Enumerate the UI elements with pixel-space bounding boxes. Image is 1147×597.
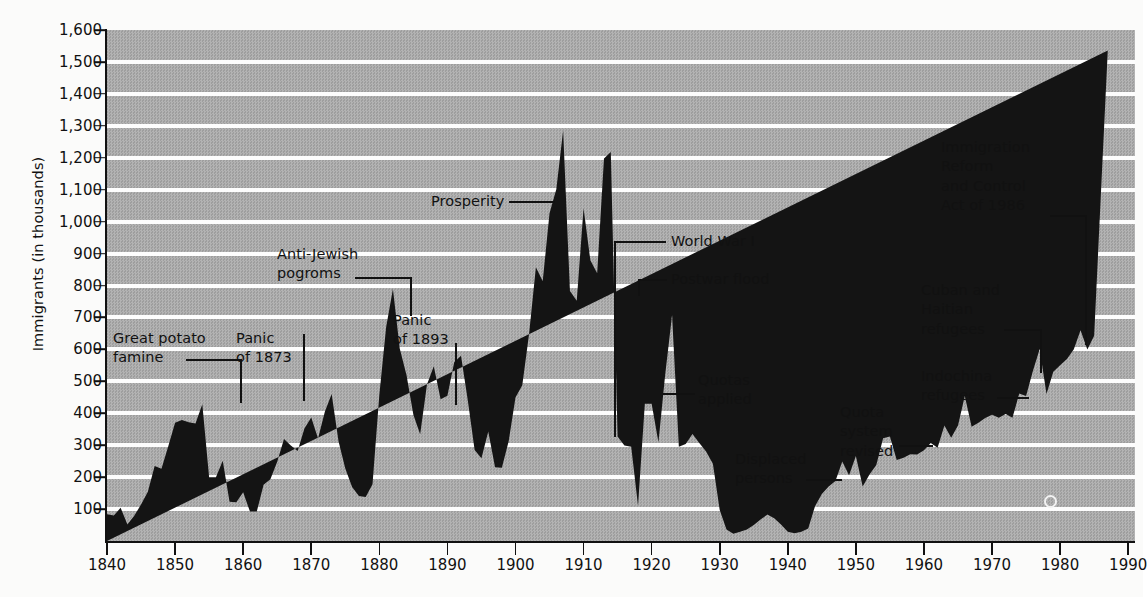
annotation-line: Displaced: [735, 451, 806, 467]
leader-line-great-potato-famine: [186, 359, 241, 361]
x-tick-mark: [787, 543, 789, 555]
y-tick-mark: [94, 349, 105, 351]
x-tick-mark: [1127, 543, 1129, 555]
x-tick-mark: [174, 543, 176, 555]
annotation-line: World War I: [671, 233, 755, 249]
x-tick-label: 1850: [156, 556, 194, 574]
annotation-prosperity: Prosperity: [431, 192, 504, 211]
y-tick-mark: [94, 317, 105, 319]
leader-line-indochina-refugees: [997, 397, 1029, 399]
leader-line-panic-of-1893: [455, 343, 457, 405]
x-tick-label: 1970: [973, 556, 1011, 574]
annotation-line: revised: [840, 443, 893, 459]
annotation-displaced-persons: Displaced persons: [735, 450, 806, 489]
annotation-line: Reform: [941, 158, 993, 174]
y-tick-mark: [94, 253, 105, 255]
leader-line-prosperity: [509, 201, 555, 203]
leader-line-irca: [1050, 215, 1086, 217]
y-tick-mark: [94, 285, 105, 287]
annotation-line: Postwar flood: [671, 271, 769, 287]
leader-line-displaced-persons: [806, 479, 842, 481]
annotation-anti-jewish-pogroms: Anti-Jewish pogroms: [277, 245, 358, 284]
x-tick-label: 1950: [837, 556, 875, 574]
leader-line-anti-jewish-pogroms: [355, 277, 411, 279]
leader-line-postwar-flood-v: [638, 279, 640, 296]
leader-line-quotas-applied: [663, 393, 695, 395]
y-tick-mark: [94, 444, 105, 446]
leader-line-postwar-flood: [638, 279, 667, 281]
x-tick-mark: [310, 543, 312, 555]
y-tick-mark: [94, 157, 105, 159]
print-artifact-dot: [1044, 495, 1057, 508]
x-tick-mark: [242, 543, 244, 555]
leader-line-irca-v: [1085, 215, 1087, 345]
y-tick-mark: [94, 412, 105, 414]
annotation-line: Prosperity: [431, 193, 504, 209]
x-tick-label: 1980: [1041, 556, 1079, 574]
annotation-line: of 1893: [393, 331, 449, 347]
annotation-immigration-reform-control-act: Immigration Reform and Control Act of 19…: [941, 138, 1030, 215]
leader-line-panic-of-1873: [303, 334, 305, 401]
annotation-line: Great potato: [113, 330, 206, 346]
x-tick-mark: [1059, 543, 1061, 555]
x-tick-label: 1860: [224, 556, 262, 574]
x-tick-label: 1990: [1109, 556, 1147, 574]
annotation-cuban-and-haitian-refugees: Cuban and Haitian refugees: [921, 281, 1000, 339]
annotation-line: Panic: [393, 312, 431, 328]
x-tick-mark: [855, 543, 857, 555]
annotation-great-potato-famine: Great potato famine: [113, 329, 206, 368]
annotation-indochina-refugees: Indochina refugees: [921, 367, 992, 406]
x-axis-spine: [105, 541, 1135, 543]
leader-line-world-war-i: [614, 241, 666, 243]
x-tick-label: 1880: [360, 556, 398, 574]
annotation-line: and Control: [941, 178, 1026, 194]
annotation-postwar-flood: Postwar flood: [671, 270, 769, 289]
leader-line-world-war-i-v: [614, 241, 616, 437]
x-tick-label: 1930: [701, 556, 739, 574]
x-tick-mark: [106, 543, 108, 555]
annotation-line: applied: [698, 391, 752, 407]
x-tick-label: 1870: [292, 556, 330, 574]
annotation-line: Anti-Jewish: [277, 246, 358, 262]
annotation-line: Quotas: [698, 372, 750, 388]
annotation-quota-system-revised: Quota system revised: [840, 403, 893, 461]
leader-line-cuban-haitian-refugees: [1004, 329, 1041, 331]
annotation-line: pogroms: [277, 265, 341, 281]
x-tick-label: 1840: [88, 556, 126, 574]
annotation-line: persons: [735, 470, 793, 486]
x-tick-mark: [991, 543, 993, 555]
leader-line-cuban-haitian-refugees-v: [1040, 329, 1042, 373]
x-tick-mark: [923, 543, 925, 555]
y-tick-mark: [94, 189, 105, 191]
x-tick-label: 1900: [496, 556, 534, 574]
y-tick-mark: [94, 508, 105, 510]
annotation-line: Indochina: [921, 368, 992, 384]
y-tick-mark: [94, 476, 105, 478]
x-tick-mark: [447, 543, 449, 555]
y-tick-mark: [94, 125, 105, 127]
annotation-line: Act of 1986: [941, 197, 1025, 213]
x-tick-label: 1960: [905, 556, 943, 574]
annotation-line: system: [840, 423, 893, 439]
annotation-panic-of-1873: Panic of 1873: [236, 329, 292, 368]
y-tick-mark: [94, 61, 105, 63]
annotation-line: Haitian: [921, 301, 973, 317]
annotation-line: refugees: [921, 387, 985, 403]
annotation-line: Panic: [236, 330, 274, 346]
annotation-quotas-applied: Quotas applied: [698, 371, 752, 410]
annotation-world-war-i: World War I: [671, 232, 755, 251]
y-tick-mark: [94, 93, 105, 95]
annotation-line: Immigration: [941, 139, 1030, 155]
annotation-line: of 1873: [236, 349, 292, 365]
x-tick-label: 1940: [769, 556, 807, 574]
x-tick-label: 1890: [428, 556, 466, 574]
x-tick-mark: [379, 543, 381, 555]
x-tick-label: 1910: [564, 556, 602, 574]
annotation-line: famine: [113, 349, 164, 365]
annotation-line: refugees: [921, 321, 985, 337]
annotation-line: Quota: [840, 404, 884, 420]
x-tick-mark: [651, 543, 653, 555]
y-tick-mark: [94, 381, 105, 383]
y-tick-mark: [94, 221, 105, 223]
